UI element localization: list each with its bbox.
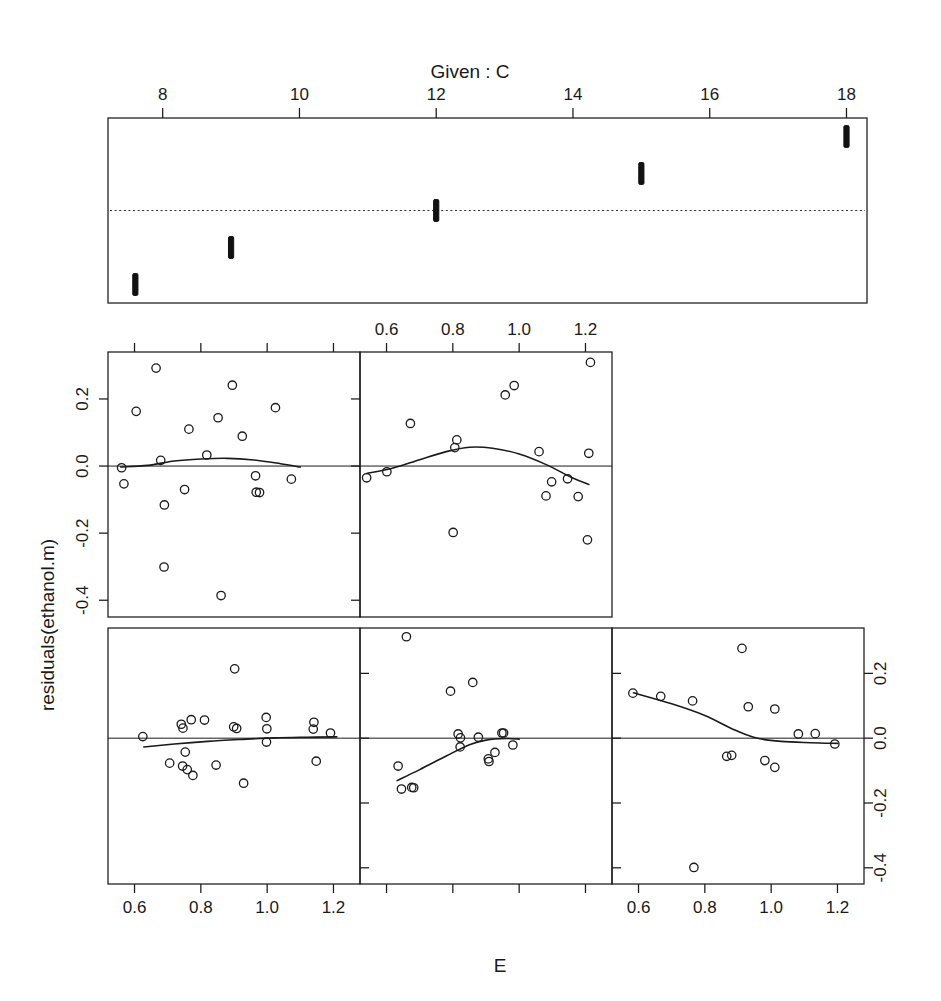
- panel-frame: [108, 352, 360, 617]
- data-point: [794, 730, 802, 738]
- data-point: [771, 705, 779, 713]
- data-point: [212, 761, 220, 769]
- data-point: [187, 716, 195, 724]
- given-interval-bar: [434, 200, 439, 222]
- data-point: [547, 478, 555, 486]
- data-point: [312, 757, 320, 765]
- data-point: [271, 403, 279, 411]
- data-point: [217, 591, 225, 599]
- data-point: [509, 741, 517, 749]
- data-point: [586, 358, 594, 366]
- data-point: [474, 733, 482, 741]
- given-tick-label: 16: [700, 85, 719, 104]
- data-point: [251, 472, 259, 480]
- y-tick-label: 0.0: [871, 726, 890, 750]
- data-point: [690, 863, 698, 871]
- scatter-panel: [360, 628, 621, 893]
- given-panel: [108, 108, 867, 303]
- x-tick-label: 0.6: [375, 320, 399, 339]
- x-tick-label: 0.6: [123, 898, 147, 917]
- scatter-panel: [351, 343, 612, 617]
- data-point: [326, 729, 334, 737]
- data-point: [738, 644, 746, 652]
- data-point: [238, 432, 246, 440]
- x-tick-label: 0.8: [441, 320, 465, 339]
- data-point: [491, 748, 499, 756]
- data-point: [542, 492, 550, 500]
- data-point: [185, 425, 193, 433]
- data-point: [688, 697, 696, 705]
- data-point: [397, 785, 405, 793]
- data-point: [744, 703, 752, 711]
- y-tick-label: 0.2: [73, 387, 92, 411]
- x-tick-label: 0.8: [693, 898, 717, 917]
- x-tick-label: 0.6: [627, 898, 651, 917]
- panel-frame: [108, 628, 360, 884]
- coplot-figure: 810121416180.60.81.01.20.60.81.01.20.20.…: [0, 0, 941, 1001]
- data-point: [152, 364, 160, 372]
- given-title: Given : C: [430, 61, 509, 82]
- given-tick-label: 10: [290, 85, 309, 104]
- data-point: [200, 716, 208, 724]
- y-tick-label: 0.0: [73, 454, 92, 478]
- x-tick-label: 1.2: [574, 320, 598, 339]
- data-point: [451, 443, 459, 451]
- data-point: [262, 713, 270, 721]
- given-tick-label: 12: [427, 85, 446, 104]
- given-interval-bar: [844, 126, 849, 148]
- smooth-curve: [397, 738, 519, 780]
- scatter-panels: [99, 343, 873, 893]
- panel-frame: [360, 352, 612, 617]
- data-point: [574, 492, 582, 500]
- y-tick-label: -0.2: [871, 788, 890, 817]
- data-point: [160, 563, 168, 571]
- data-point: [446, 687, 454, 695]
- data-point: [230, 665, 238, 673]
- y-tick-label: -0.2: [73, 518, 92, 547]
- x-tick-label: 1.0: [507, 320, 531, 339]
- x-tick-label: 1.2: [322, 898, 346, 917]
- x-tick-label: 1.2: [826, 898, 850, 917]
- data-point: [214, 414, 222, 422]
- y-axis-title: residuals(ethanol.m): [37, 539, 58, 711]
- data-point: [657, 692, 665, 700]
- data-point: [394, 762, 402, 770]
- data-point: [469, 678, 477, 686]
- y-tick-label: 0.2: [871, 662, 890, 686]
- given-tick-label: 8: [158, 85, 167, 104]
- data-point: [120, 480, 128, 488]
- data-point: [728, 751, 736, 759]
- given-interval-bar: [228, 237, 233, 259]
- scatter-panel: [99, 343, 360, 617]
- x-tick-label: 1.0: [759, 898, 783, 917]
- data-point: [406, 419, 414, 427]
- data-point: [239, 779, 247, 787]
- data-point: [181, 748, 189, 756]
- data-point: [132, 407, 140, 415]
- scatter-panel: [108, 628, 369, 893]
- coplot-canvas: 810121416180.60.81.01.20.60.81.01.20.20.…: [0, 0, 941, 1001]
- x-tick-label: 0.8: [189, 898, 213, 917]
- data-point: [402, 633, 410, 641]
- y-tick-label: -0.4: [73, 586, 92, 615]
- data-point: [232, 724, 240, 732]
- data-point: [583, 536, 591, 544]
- data-point: [203, 451, 211, 459]
- data-point: [228, 381, 236, 389]
- data-point: [585, 449, 593, 457]
- data-point: [453, 436, 461, 444]
- data-point: [263, 725, 271, 733]
- data-point: [771, 763, 779, 771]
- given-tick-label: 14: [564, 85, 583, 104]
- data-point: [761, 756, 769, 764]
- given-interval-bar: [133, 274, 138, 296]
- data-point: [811, 729, 819, 737]
- x-tick-label: 1.0: [255, 898, 279, 917]
- x-axis-title: E: [494, 955, 507, 976]
- data-point: [510, 381, 518, 389]
- given-interval-bar: [639, 163, 644, 185]
- data-point: [287, 475, 295, 483]
- axis-labels: 810121416180.60.81.01.20.60.81.01.20.20.…: [73, 85, 890, 917]
- data-point: [165, 759, 173, 767]
- data-point: [160, 501, 168, 509]
